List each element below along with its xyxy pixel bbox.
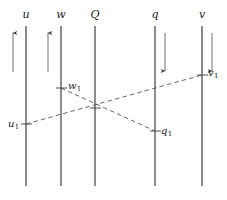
worldline-group [26,26,202,186]
path-w1-q1 [61,88,155,131]
event-label-q1: q1 [161,126,172,136]
event-label-u1: u1 [8,119,19,129]
event-label-v1-sub: 1 [214,72,218,80]
event-label-w1-base: w [68,80,77,91]
event-label-u1-base: u [8,118,14,129]
direction-arrow-group [13,33,212,72]
worldline-diagram: u w Q q v u1 w1 q1 v1 [0,0,227,200]
diagram-canvas [0,0,227,200]
event-label-u1-sub: 1 [15,123,19,131]
event-label-w1-sub: 1 [77,85,81,93]
event-label-v1-base: v [208,67,214,78]
event-label-q1-base: q [161,125,167,136]
worldline-label-v: v [199,9,205,20]
path-u1-v1 [26,75,202,124]
worldline-label-Q: Q [90,9,99,20]
event-label-q1-sub: 1 [168,130,172,138]
event-label-w1: w1 [68,81,81,91]
worldline-label-q: q [151,9,158,20]
tick-mark-group [21,75,208,131]
worldline-label-u: u [22,9,29,20]
dashed-path-group [26,75,202,131]
worldline-label-w: w [56,9,65,20]
event-label-v1: v1 [208,68,218,78]
